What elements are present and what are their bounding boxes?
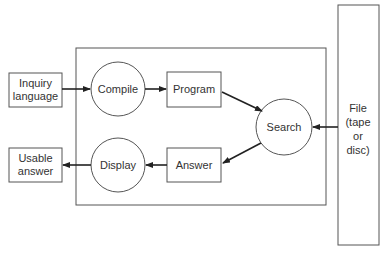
file-label-4: disc) [346, 144, 369, 156]
inquiry-label-2: language [13, 90, 58, 102]
file-label-3: or [353, 130, 363, 142]
search-label: Search [267, 121, 302, 133]
diagram-canvas: File (tape or disc) Inquiry language Com… [0, 0, 386, 253]
usable-label-1: Usable [18, 152, 52, 164]
search-node: Search [256, 99, 312, 155]
arrow-search-to-answer [223, 143, 261, 163]
usable-answer-node: Usable answer [9, 148, 62, 182]
answer-node: Answer [167, 148, 221, 182]
inquiry-label-1: Inquiry [19, 77, 53, 89]
compile-node: Compile [91, 62, 145, 116]
display-node: Display [91, 138, 145, 192]
file-node: File (tape or disc) [338, 5, 379, 245]
arrow-program-to-search [222, 92, 262, 111]
compile-label: Compile [98, 83, 138, 95]
program-label: Program [173, 83, 215, 95]
display-label: Display [100, 159, 137, 171]
answer-label: Answer [176, 159, 213, 171]
file-label-2: (tape [345, 116, 370, 128]
program-node: Program [167, 72, 221, 107]
inquiry-language-node: Inquiry language [9, 73, 62, 107]
usable-label-2: answer [18, 165, 54, 177]
file-label-1: File [349, 102, 367, 114]
